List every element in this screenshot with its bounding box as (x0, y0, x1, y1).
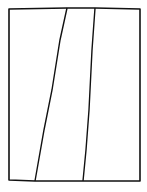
divider-line-left (35, 8, 67, 181)
divider-line-right (83, 8, 95, 181)
frame-rectangle (9, 8, 140, 181)
sketch-canvas (0, 0, 147, 192)
